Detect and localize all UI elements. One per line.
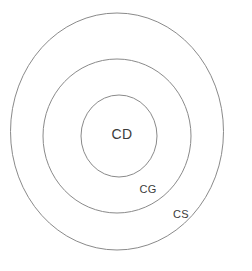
outer-circle-label-cs: CS <box>173 209 189 220</box>
inner-circle-label-cd: CD <box>112 127 133 141</box>
concentric-circles-diagram: CD CG CS <box>0 0 252 271</box>
middle-circle-label-cg: CG <box>139 184 156 195</box>
